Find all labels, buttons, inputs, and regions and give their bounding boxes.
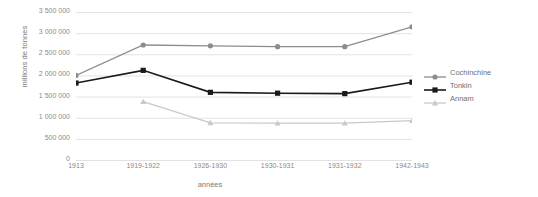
x-tick-label: 1926-1930	[194, 162, 227, 169]
data-point-marker	[342, 91, 347, 96]
data-point-marker	[409, 24, 412, 29]
x-axis-title: années	[0, 180, 420, 189]
data-point-marker	[141, 42, 146, 47]
series-cochinchine	[76, 24, 412, 78]
plot-area	[76, 12, 412, 160]
y-tick-label: 2 000 000	[18, 70, 70, 77]
x-tick-label: 1942-1943	[395, 162, 428, 169]
legend-label: Tonkin	[450, 81, 472, 90]
y-tick-label: 0	[18, 155, 70, 162]
legend-label: Cochinchine	[450, 68, 491, 77]
legend-item-cochinchine[interactable]: Cochinchine	[424, 66, 536, 79]
series-tonkin	[76, 68, 412, 96]
y-tick-label: 2 500 000	[18, 49, 70, 56]
legend-marker-icon	[424, 68, 446, 78]
y-tick-label: 1 500 000	[18, 92, 70, 99]
data-point-marker	[141, 68, 146, 73]
y-axis-tick-labels: 0500 0001 000 0001 500 0002 000 0002 500…	[18, 0, 70, 197]
legend-marker-icon	[424, 94, 446, 104]
data-point-marker	[342, 44, 347, 49]
series-annam	[140, 99, 412, 126]
y-tick-label: 3 000 000	[18, 28, 70, 35]
data-point-marker	[409, 80, 412, 85]
y-tick-label: 1 000 000	[18, 113, 70, 120]
chart-container: millions de tonnes 0500 0001 000 0001 50…	[0, 0, 538, 197]
x-tick-label: 1919-1922	[126, 162, 159, 169]
legend-item-tonkin[interactable]: Tonkin	[424, 79, 536, 92]
data-point-marker	[140, 99, 146, 104]
data-point-marker	[275, 91, 280, 96]
data-point-marker	[275, 44, 280, 49]
data-point-marker	[76, 73, 79, 78]
x-tick-label: 1930-1931	[261, 162, 294, 169]
data-point-marker	[208, 90, 213, 95]
legend-label: Annam	[450, 94, 474, 103]
x-tick-label: 1913	[68, 162, 84, 169]
x-tick-label: 1931-1932	[328, 162, 361, 169]
data-point-marker	[432, 87, 437, 92]
chart-svg	[76, 12, 412, 161]
series-line	[76, 70, 412, 93]
legend-item-annam[interactable]: Annam	[424, 92, 536, 105]
y-tick-label: 3 500 000	[18, 7, 70, 14]
data-point-marker	[208, 43, 213, 48]
x-axis-tick-labels: 19131919-19221926-19301930-19311931-1932…	[76, 162, 412, 176]
y-tick-label: 500 000	[18, 134, 70, 141]
data-point-marker	[76, 80, 79, 85]
series-line	[143, 102, 412, 124]
data-point-marker	[432, 74, 437, 79]
legend-marker-icon	[424, 81, 446, 91]
chart-legend: CochinchineTonkinAnnam	[424, 66, 536, 105]
